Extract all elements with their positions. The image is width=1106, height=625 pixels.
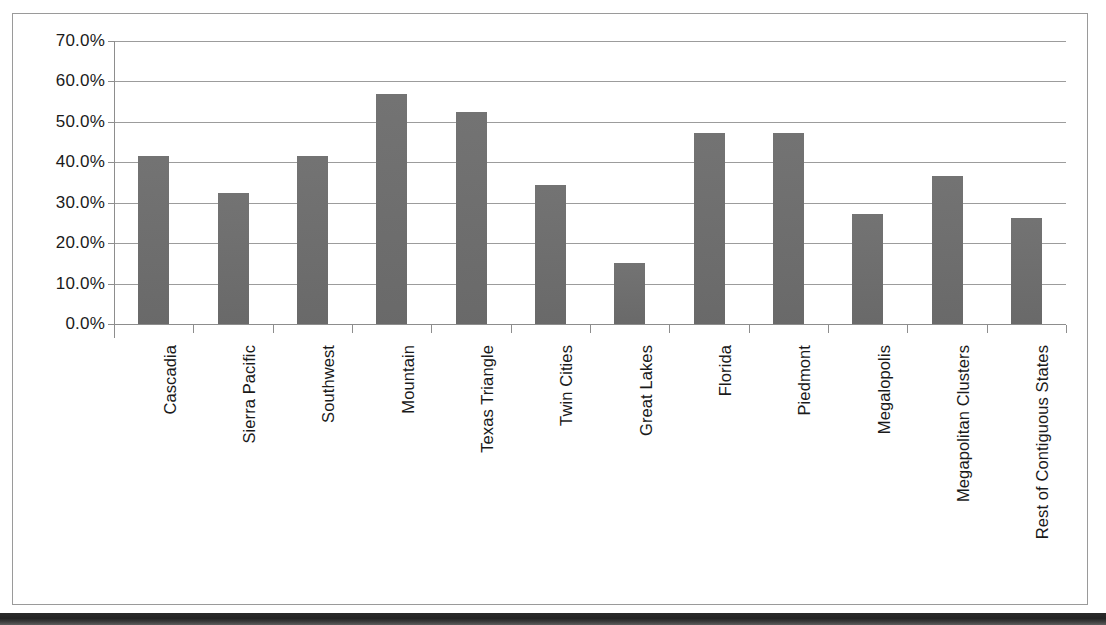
x-tick-label: Great Lakes xyxy=(638,345,655,436)
x-axis-tick xyxy=(987,325,988,333)
x-tick-label: Mountain xyxy=(400,345,417,414)
bar xyxy=(218,193,249,324)
chart-frame: 70.0%60.0%50.0%40.0%30.0%20.0%10.0%0.0% … xyxy=(12,13,1088,605)
y-tick-label: 30.0% xyxy=(19,194,105,211)
gridline xyxy=(114,284,1066,285)
scan-edge-artifact xyxy=(0,613,1106,625)
x-tick-label: Sierra Pacific xyxy=(241,345,258,444)
x-tick-label: Florida xyxy=(717,345,734,396)
x-tick-label: Twin Cities xyxy=(558,345,575,426)
y-tick-label-slot: 20.0% xyxy=(13,243,105,244)
x-axis-tick xyxy=(352,325,353,333)
gridline xyxy=(114,162,1066,163)
y-tick-label-slot: 60.0% xyxy=(13,81,105,82)
bar xyxy=(1011,218,1042,324)
x-axis-tick xyxy=(749,325,750,333)
x-axis-tick xyxy=(907,325,908,333)
y-tick-label: 40.0% xyxy=(19,153,105,170)
x-axis-tick xyxy=(431,325,432,333)
x-tick-label: Piedmont xyxy=(796,345,813,416)
plot-area: 70.0%60.0%50.0%40.0%30.0%20.0%10.0%0.0% … xyxy=(13,14,1089,606)
x-axis-tick xyxy=(590,325,591,333)
bar xyxy=(376,94,407,324)
bar xyxy=(297,156,328,324)
y-tick-label-slot: 70.0% xyxy=(13,41,105,42)
y-tick-label-slot: 30.0% xyxy=(13,203,105,204)
y-tick-label-slot: 50.0% xyxy=(13,122,105,123)
x-tick-label: Megalopolis xyxy=(876,345,893,434)
bar xyxy=(138,156,169,324)
x-tick-label: Texas Triangle xyxy=(479,345,496,453)
x-axis-tick xyxy=(273,325,274,333)
x-axis-tick xyxy=(669,325,670,333)
y-tick-label-slot: 40.0% xyxy=(13,162,105,163)
bar xyxy=(852,214,883,324)
bar xyxy=(535,185,566,324)
x-tick-label: Southwest xyxy=(320,345,337,423)
bar xyxy=(614,263,645,324)
x-axis-tick xyxy=(511,325,512,333)
gridline xyxy=(114,243,1066,244)
y-axis-line xyxy=(114,41,115,338)
y-tick-label: 10.0% xyxy=(19,275,105,292)
y-tick-label-slot: 10.0% xyxy=(13,284,105,285)
bar xyxy=(456,112,487,324)
x-tick-label: Cascadia xyxy=(162,345,179,415)
x-axis-tick xyxy=(1066,325,1067,333)
y-tick-label: 60.0% xyxy=(19,72,105,89)
x-axis-tick xyxy=(193,325,194,333)
gridline xyxy=(114,81,1066,82)
x-tick-label: Rest of Contiguous States xyxy=(1034,345,1051,539)
gridline xyxy=(114,203,1066,204)
x-axis-tick xyxy=(114,325,115,333)
y-tick-label-slot: 0.0% xyxy=(13,324,105,325)
y-tick-label: 0.0% xyxy=(19,315,105,332)
bar xyxy=(694,133,725,324)
y-tick-label: 70.0% xyxy=(19,32,105,49)
y-tick-label: 20.0% xyxy=(19,234,105,251)
gridline xyxy=(114,122,1066,123)
bar xyxy=(773,133,804,324)
gridline xyxy=(114,41,1066,42)
x-tick-label: Megapolitan Clusters xyxy=(955,345,972,502)
x-axis-tick xyxy=(828,325,829,333)
bar xyxy=(932,176,963,324)
y-tick-label: 50.0% xyxy=(19,113,105,130)
